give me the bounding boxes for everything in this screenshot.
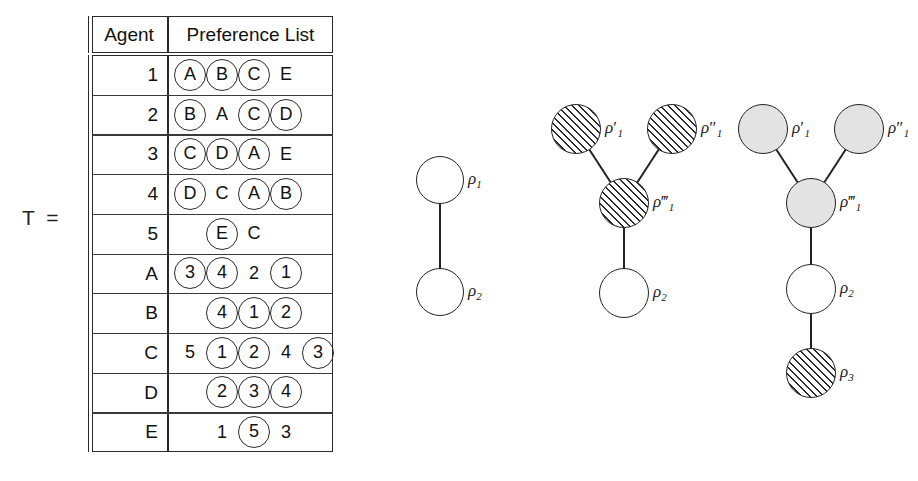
preference-token-circled: C [238,59,270,91]
preference-token-circled: C [238,99,270,131]
table-row: 153 [168,412,333,452]
preference-token: C [209,180,236,207]
preference-token-circled: 4 [206,257,238,289]
table-row: ABCE [168,55,333,95]
graph-node-label-rho2: ρ2 [653,282,667,303]
preference-token-circled: A [238,138,270,170]
agent-cell: 5 [92,223,158,245]
table-row: 234 [168,373,333,413]
preference-token-circled: B [270,178,302,210]
table-row: EC [168,214,333,254]
table-row: 412 [168,293,333,333]
graph-node-label-rho3: ρ3 [840,362,854,383]
agent-cell: A [92,263,158,285]
graph-middle: ρ′1ρ″1ρ‴1ρ2 [543,100,733,330]
preference-token-circled: C [174,138,206,170]
preference-token: C [241,220,268,247]
agent-cell: B [92,302,158,324]
figure-canvas: T = Agent Preference List 1ABCE2BACD3CDA… [0,0,918,481]
table-left-edge-decor-body [88,55,89,452]
table-row: BACD [168,95,333,135]
preference-table: Agent Preference List 1ABCE2BACD3CDAE4DC… [92,16,335,453]
preference-token-circled: 2 [206,376,238,408]
agent-cell: 3 [92,143,158,165]
preference-token-circled: 4 [206,297,238,329]
graph-node-label-rho1: ρ1 [468,169,482,190]
preference-token: 4 [273,339,300,366]
graph-node-rho1p [738,104,788,154]
preference-token-circled: E [206,218,238,250]
agent-cell: 4 [92,183,158,205]
preference-token-circled: 5 [238,416,270,448]
preference-token-circled: D [206,138,238,170]
preference-token: 5 [177,339,204,366]
agent-cell: E [92,421,158,443]
preference-token-circled: B [174,99,206,131]
graph-node-label-rho1pp: ρ″1 [701,118,722,139]
graph-node-rho1ppp [599,178,649,228]
graph-node-label-rho1p: ρ′1 [792,118,810,139]
preference-token: 1 [209,419,236,446]
preference-token-circled: 3 [302,337,334,369]
column-header-preference-list: Preference List [168,16,333,53]
column-header-agent: Agent [92,16,166,53]
preference-token-circled: 1 [206,337,238,369]
preference-token-circled: D [174,178,206,210]
graph-node-rho1 [416,156,464,204]
preference-token-circled: B [206,59,238,91]
preference-token: A [209,101,236,128]
graph-node-label-rho2: ρ2 [840,278,854,299]
preference-token: E [273,61,300,88]
agent-cell: 1 [92,64,158,86]
graph-node-label-rho1pp: ρ″1 [888,118,909,139]
graph-right: ρ′1ρ″1ρ‴1ρ2ρ3 [730,100,918,410]
graph-node-rho1ppp [786,178,836,228]
table-row: DCAB [168,174,333,214]
table-row: CDAE [168,134,333,174]
graph-node-rho1p [551,104,601,154]
preference-token-circled: 2 [270,297,302,329]
graph-node-rho1pp [834,104,884,154]
preference-token-circled: A [174,59,206,91]
graph-node-label-rho1ppp: ρ‴1 [653,192,674,213]
graph-left: ρ1ρ2 [398,138,518,328]
graph-node-label-rho1p: ρ′1 [605,118,623,139]
agent-cell: C [92,342,158,364]
graph-node-rho2 [599,268,649,318]
agent-cell: 2 [92,104,158,126]
graph-node-rho3 [786,348,836,398]
graph-node-label-rho2: ρ2 [468,281,482,302]
preference-token: 2 [241,260,268,287]
graph-node-rho2 [786,264,836,314]
table-row: 51243 [168,333,333,373]
table-row: 3421 [168,254,333,294]
preference-token-circled: 1 [270,257,302,289]
matrix-label: T = [22,206,62,230]
preference-token-circled: 3 [174,257,206,289]
preference-token-circled: A [238,178,270,210]
graph-node-rho2 [416,268,464,316]
agent-cell: D [92,382,158,404]
preference-token-circled: D [270,99,302,131]
preference-token-circled: 3 [238,376,270,408]
graph-node-rho1pp [647,104,697,154]
graph-node-label-rho1ppp: ρ‴1 [840,192,861,213]
preference-token: E [273,141,300,168]
preference-token: 3 [273,419,300,446]
table-frame: Agent Preference List 1ABCE2BACD3CDAE4DC… [92,16,335,453]
preference-token-circled: 4 [270,376,302,408]
preference-token-circled: 2 [238,337,270,369]
table-left-edge-decor [88,16,89,53]
preference-token-circled: 1 [238,297,270,329]
